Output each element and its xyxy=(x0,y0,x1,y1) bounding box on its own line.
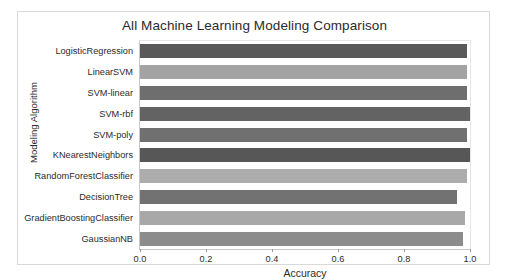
y-tick-label: LogisticRegression xyxy=(55,46,133,56)
bar-row: SVM-poly xyxy=(140,128,470,142)
x-tick-mark xyxy=(206,249,207,252)
chart-figure: All Machine Learning Modeling Comparison… xyxy=(17,11,490,265)
y-tick-label: KNearestNeighbors xyxy=(53,150,133,160)
bar-linearsvm xyxy=(140,65,467,79)
y-tick-label: LinearSVM xyxy=(88,67,133,77)
bar-knearestneighbors xyxy=(140,148,470,162)
bar-row: DecisionTree xyxy=(140,190,470,204)
x-tick-mark xyxy=(404,249,405,252)
x-tick-mark xyxy=(338,249,339,252)
bar-row: SVM-linear xyxy=(140,86,470,100)
x-axis-title: Accuracy xyxy=(140,267,470,279)
y-tick-label: DecisionTree xyxy=(79,192,133,202)
bar-decisiontree xyxy=(140,190,457,204)
x-tick-mark xyxy=(140,249,141,252)
bar-svm-rbf xyxy=(140,107,470,121)
y-tick-label: GaussianNB xyxy=(81,234,133,244)
bar-row: GradientBoostingClassifier xyxy=(140,211,470,225)
bar-randomforestclassifier xyxy=(140,169,467,183)
bar-svm-linear xyxy=(140,86,467,100)
y-tick-label: SVM-poly xyxy=(93,130,133,140)
y-tick-label: RandomForestClassifier xyxy=(34,171,133,181)
x-tick-mark xyxy=(272,249,273,252)
x-tick-mark xyxy=(470,249,471,252)
y-tick-label: SVM-linear xyxy=(88,88,133,98)
bar-row: GaussianNB xyxy=(140,232,470,246)
bar-row: SVM-rbf xyxy=(140,107,470,121)
bar-logisticregression xyxy=(140,44,467,58)
bar-svm-poly xyxy=(140,128,467,142)
y-tick-label: GradientBoostingClassifier xyxy=(24,213,133,223)
bar-row: KNearestNeighbors xyxy=(140,148,470,162)
bar-row: LogisticRegression xyxy=(140,44,470,58)
plot-area: LogisticRegression LinearSVM SVM-linear … xyxy=(139,40,471,250)
y-tick-label: SVM-rbf xyxy=(99,109,133,119)
chart-title: All Machine Learning Modeling Comparison xyxy=(18,18,491,33)
bar-row: RandomForestClassifier xyxy=(140,169,470,183)
bar-gradientboostingclassifier xyxy=(140,211,465,225)
bar-row: LinearSVM xyxy=(140,65,470,79)
bar-gaussiannb xyxy=(140,232,463,246)
